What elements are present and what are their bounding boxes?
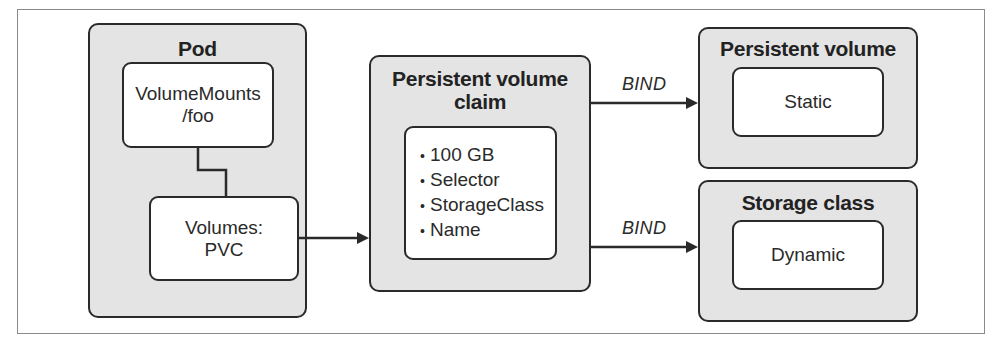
pvc-title-line1: Persistent volume <box>371 67 589 90</box>
pod-title: Pod <box>90 37 305 60</box>
static-box: Static <box>732 67 884 137</box>
volumes-label: Volumes: <box>185 217 263 239</box>
pvc-spec-box: •100 GB •Selector •StorageClass •Name <box>404 126 557 260</box>
volume-mounts-path: /foo <box>135 105 261 127</box>
dynamic-box: Dynamic <box>732 220 884 290</box>
pvc-spec-item: •Selector <box>420 168 544 193</box>
pvc-spec-item: •100 GB <box>420 143 544 168</box>
pvc-spec-selector: Selector <box>430 169 500 190</box>
bullet-icon: • <box>420 144 430 168</box>
bullet-icon: • <box>420 169 430 193</box>
pvc-spec-size: 100 GB <box>430 144 494 165</box>
volumes-box: Volumes: PVC <box>149 196 299 281</box>
dynamic-label: Dynamic <box>771 244 845 266</box>
static-label: Static <box>784 91 832 113</box>
pvc-spec-item: •Name <box>420 218 544 243</box>
bind-label-dynamic: BIND <box>622 218 666 239</box>
bind-label-static: BIND <box>622 74 666 95</box>
storage-class-title: Storage class <box>700 191 916 214</box>
volume-mounts-label: VolumeMounts <box>135 83 261 105</box>
bullet-icon: • <box>420 219 430 243</box>
pvc-spec-storageclass: StorageClass <box>430 194 544 215</box>
volume-mounts-box: VolumeMounts /foo <box>122 62 274 148</box>
bullet-icon: • <box>420 194 430 218</box>
pvc-spec-list: •100 GB •Selector •StorageClass •Name <box>406 143 544 243</box>
pvc-spec-name: Name <box>430 219 481 240</box>
persistent-volume-title: Persistent volume <box>700 37 916 60</box>
pvc-title-line2: claim <box>371 90 589 113</box>
pvc-spec-item: •StorageClass <box>420 193 544 218</box>
volumes-type: PVC <box>185 239 263 261</box>
